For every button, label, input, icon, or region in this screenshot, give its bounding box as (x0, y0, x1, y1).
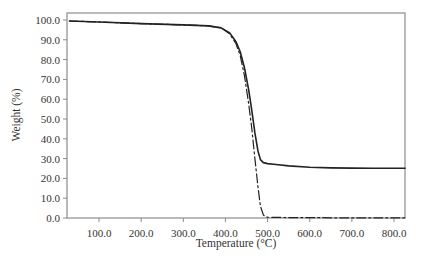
x-tick-label: 600.0 (297, 227, 322, 239)
x-tick-label: 700.0 (339, 227, 364, 239)
y-tick-label: 30.0 (41, 153, 61, 165)
series-line-dash-dot (70, 21, 406, 218)
tga-chart: 0.010.020.030.040.050.060.070.080.090.01… (0, 0, 427, 265)
series-line-solid (70, 21, 406, 168)
x-axis-ticks: 100.0200.0300.0400.0500.0600.0700.0800.0 (87, 218, 407, 239)
y-tick-label: 60.0 (41, 93, 61, 105)
y-tick-label: 80.0 (41, 54, 61, 66)
y-tick-label: 0.0 (46, 212, 60, 224)
y-tick-label: 100.0 (35, 14, 60, 26)
x-tick-label: 800.0 (382, 227, 407, 239)
y-tick-label: 40.0 (41, 133, 61, 145)
y-tick-label: 70.0 (41, 73, 61, 85)
x-axis-title: Temperature (°C) (196, 237, 277, 250)
x-tick-label: 200.0 (129, 227, 154, 239)
y-tick-label: 20.0 (41, 172, 61, 184)
x-tick-label: 300.0 (171, 227, 196, 239)
y-tick-label: 50.0 (41, 113, 61, 125)
y-tick-label: 90.0 (41, 34, 61, 46)
y-axis-ticks: 0.010.020.030.040.050.060.070.080.090.01… (35, 14, 67, 224)
x-tick-label: 100.0 (87, 227, 112, 239)
y-axis-title: Weight (%) (10, 88, 23, 141)
data-series (70, 21, 406, 218)
y-tick-label: 10.0 (41, 192, 61, 204)
